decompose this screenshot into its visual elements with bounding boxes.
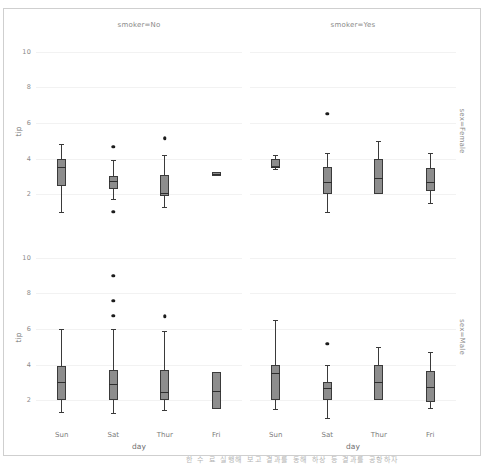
median-line: [160, 392, 169, 393]
y-tick-label: 10: [22, 48, 31, 56]
whisker-cap-upper: [273, 320, 278, 321]
y-tick-label: 6: [27, 325, 31, 333]
whisker-upper: [430, 153, 431, 168]
whisker-cap-upper: [59, 329, 64, 330]
box-iqr: [271, 365, 280, 401]
whisker-lower: [327, 194, 328, 212]
x-tick-label: Sun: [269, 431, 282, 439]
whisker-cap-upper: [59, 144, 64, 145]
whisker-cap-lower: [111, 413, 116, 414]
x-tick-label: Sat: [322, 431, 333, 439]
facet-panel-yes-male: sex=MaleSunSatThurFriday: [250, 240, 456, 425]
whisker-cap-lower: [428, 203, 433, 204]
median-line: [323, 182, 332, 183]
median-line: [57, 382, 66, 383]
box-iqr: [160, 370, 169, 400]
x-tick-label: Fri: [426, 431, 434, 439]
boxplot-sat: [323, 34, 332, 219]
whisker-upper: [378, 347, 379, 365]
whisker-cap-upper: [162, 155, 167, 156]
whisker-upper: [275, 320, 276, 364]
median-line: [109, 181, 118, 182]
whisker-lower: [327, 400, 328, 418]
y-tick-label: 2: [27, 396, 31, 404]
whisker-cap-lower: [325, 212, 330, 213]
whisker-lower: [164, 196, 165, 208]
median-line: [271, 167, 280, 168]
boxplot-thur: [374, 34, 383, 219]
whisker-upper: [327, 153, 328, 167]
boxplot-thur: [374, 240, 383, 425]
whisker-cap-lower: [111, 199, 116, 200]
whisker-upper: [113, 160, 114, 176]
boxplot-thur: [160, 240, 169, 425]
x-axis-label: day: [346, 442, 360, 451]
bottom-caption-strip: 한 수 료 실행해 보고 결과를 동해 하상 등 결과를 공항하자: [0, 456, 487, 464]
whisker-upper: [430, 352, 431, 371]
whisker-upper: [164, 155, 165, 175]
median-line: [426, 387, 435, 388]
whisker-cap-lower: [59, 212, 64, 213]
whisker-cap-upper: [376, 141, 381, 142]
whisker-lower: [430, 191, 431, 203]
y-tick-label: 8: [27, 83, 31, 91]
median-line: [426, 182, 435, 183]
whisker-lower: [275, 400, 276, 409]
boxplot-thur: [160, 34, 169, 219]
boxplot-fri: [426, 240, 435, 425]
median-line: [271, 373, 280, 374]
x-tick-label: Fri: [212, 431, 220, 439]
y-axis-label: tip: [15, 332, 24, 342]
median-line: [323, 388, 332, 389]
y-tick-label: 4: [27, 155, 31, 163]
box-iqr: [323, 167, 332, 194]
facet-panel-no-female: 246810smoker=Notip: [36, 34, 242, 219]
box-iqr: [323, 382, 332, 400]
y-tick-label: 6: [27, 119, 31, 127]
whisker-cap-lower: [325, 418, 330, 419]
box-iqr: [109, 176, 118, 188]
whisker-cap-upper: [428, 352, 433, 353]
y-tick-label: 10: [22, 254, 31, 262]
median-line: [374, 178, 383, 179]
whisker-cap-upper: [376, 347, 381, 348]
y-tick-label: 8: [27, 289, 31, 297]
x-tick-label: Sat: [108, 431, 119, 439]
figure-canvas: 246810smoker=Notipsmoker=Yessex=Female24…: [0, 0, 487, 464]
box-iqr: [109, 370, 118, 400]
bottom-caption-text: 한 수 료 실행해 보고 결과를 동해 하상 등 결과를 공항하자: [186, 456, 399, 464]
whisker-lower: [61, 186, 62, 212]
whisker-cap-lower: [273, 169, 278, 170]
boxplot-sat: [323, 240, 332, 425]
x-tick-label: Sun: [55, 431, 68, 439]
whisker-cap-lower: [162, 410, 167, 411]
whisker-upper: [378, 141, 379, 159]
whisker-cap-upper: [325, 153, 330, 154]
box-iqr: [57, 159, 66, 187]
whisker-lower: [164, 400, 165, 410]
whisker-cap-lower: [273, 409, 278, 410]
whisker-upper: [327, 365, 328, 383]
whisker-upper: [113, 329, 114, 370]
facet-row-label: sex=Male: [458, 318, 466, 354]
boxplot-fri: [212, 34, 221, 219]
facet-col-title: smoker=Yes: [331, 21, 376, 29]
x-tick-label: Thur: [157, 431, 173, 439]
whisker-upper: [61, 329, 62, 366]
boxplot-sun: [57, 240, 66, 425]
boxplot-fri: [426, 34, 435, 219]
whisker-lower: [113, 400, 114, 413]
boxplot-sun: [271, 34, 280, 219]
box-iqr: [374, 159, 383, 195]
boxplot-sat: [109, 34, 118, 219]
facet-panel-no-male: 246810tipSunSatThurFriday: [36, 240, 242, 425]
whisker-cap-upper: [428, 153, 433, 154]
boxplot-fri: [212, 240, 221, 425]
median-line: [109, 384, 118, 385]
box-iqr: [57, 366, 66, 400]
facet-col-title: smoker=No: [118, 21, 161, 29]
whisker-cap-upper: [111, 160, 116, 161]
median-line: [212, 174, 221, 175]
whisker-cap-upper: [273, 155, 278, 156]
boxplot-sun: [57, 34, 66, 219]
